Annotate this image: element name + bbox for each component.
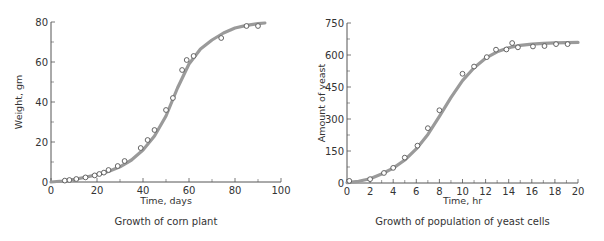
data-point xyxy=(554,42,559,47)
data-point xyxy=(244,24,249,29)
x-tick-label: 4 xyxy=(390,186,396,197)
data-point xyxy=(494,47,499,52)
data-point xyxy=(460,71,465,76)
data-point xyxy=(122,159,127,164)
data-point xyxy=(219,36,224,41)
data-point xyxy=(542,44,547,49)
data-point xyxy=(74,177,79,182)
x-tick-label: 18 xyxy=(549,186,562,197)
yeast-growth-chart: 024681012141618200150300450600750Time, h… xyxy=(316,18,584,228)
x-tick-label: 20 xyxy=(572,186,585,197)
y-tick-label: 750 xyxy=(325,18,344,29)
y-axis-label: Weight, gm xyxy=(13,75,24,129)
x-tick-label: 20 xyxy=(91,185,104,196)
y-tick-label: 40 xyxy=(35,97,48,108)
x-tick-label: 14 xyxy=(502,186,515,197)
data-point xyxy=(191,54,196,59)
corn-growth-chart: 020406080100020406080Time, daysWeight, g… xyxy=(13,17,291,228)
y-tick-label: 0 xyxy=(42,177,48,188)
data-point xyxy=(368,177,373,182)
data-point xyxy=(92,173,97,178)
x-tick-label: 16 xyxy=(525,186,538,197)
y-tick-label: 600 xyxy=(325,50,344,61)
data-point xyxy=(472,64,477,69)
x-tick-label: 0 xyxy=(344,186,350,197)
data-point xyxy=(164,108,169,113)
chart-title: Growth of corn plant xyxy=(115,216,218,227)
y-tick-label: 300 xyxy=(325,114,344,125)
data-point xyxy=(415,143,420,148)
data-point xyxy=(115,164,120,169)
data-point xyxy=(184,58,189,63)
data-point xyxy=(425,126,430,131)
chart-title: Growth of population of yeast cells xyxy=(375,216,549,227)
x-axis-label: Time, hr xyxy=(442,195,482,206)
x-tick-label: 6 xyxy=(413,186,419,197)
data-point xyxy=(382,171,387,176)
x-tick-label: 2 xyxy=(367,186,373,197)
data-point xyxy=(402,155,407,160)
y-tick-label: 60 xyxy=(35,57,48,68)
data-point xyxy=(145,138,150,143)
data-point xyxy=(256,24,261,29)
data-point xyxy=(347,178,352,183)
x-tick-label: 100 xyxy=(271,185,290,196)
y-tick-label: 450 xyxy=(325,82,344,93)
data-point xyxy=(180,68,185,73)
data-point xyxy=(437,108,442,113)
figure: 020406080100020406080Time, daysWeight, g… xyxy=(0,0,604,241)
x-tick-label: 0 xyxy=(48,185,54,196)
data-point xyxy=(97,172,102,177)
y-tick-label: 0 xyxy=(338,178,344,189)
data-point xyxy=(62,178,67,183)
x-tick-label: 80 xyxy=(229,185,242,196)
data-point xyxy=(391,165,396,170)
x-tick-label: 8 xyxy=(436,186,442,197)
data-point xyxy=(102,170,107,175)
y-tick-label: 80 xyxy=(35,17,48,28)
data-point xyxy=(484,55,489,60)
x-axis-label: Time, days xyxy=(139,195,192,206)
data-point xyxy=(152,128,157,133)
data-point xyxy=(138,146,143,151)
fitted-curve xyxy=(347,42,578,182)
data-point xyxy=(83,175,88,180)
y-tick-label: 150 xyxy=(325,146,344,157)
data-point xyxy=(106,168,111,173)
fitted-curve xyxy=(51,23,265,182)
data-point xyxy=(504,47,509,52)
data-point xyxy=(531,44,536,49)
data-point xyxy=(67,178,72,183)
data-point xyxy=(565,42,570,47)
data-point xyxy=(171,96,176,101)
y-axis-label: Amount of yeast xyxy=(316,63,327,142)
y-tick-label: 20 xyxy=(35,137,48,148)
data-point xyxy=(510,41,515,46)
data-point xyxy=(516,45,521,50)
